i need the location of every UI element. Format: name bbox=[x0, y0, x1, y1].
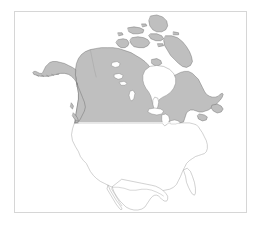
newfoundland-island-shape bbox=[211, 104, 223, 113]
devon-island-shape bbox=[149, 34, 164, 41]
ellesmere-island-shape bbox=[149, 15, 168, 32]
queen-charlotte-islands-detail bbox=[71, 103, 74, 109]
map-figure: false bbox=[0, 0, 263, 228]
map-frame bbox=[14, 11, 247, 213]
north-america-map[interactable] bbox=[15, 12, 246, 212]
florida-peninsula-outline bbox=[184, 168, 196, 195]
baffin-island-shape[interactable] bbox=[164, 36, 193, 68]
banks-island-shape bbox=[116, 39, 129, 48]
shaded-countries-group bbox=[33, 15, 223, 123]
southampton-island-shape bbox=[152, 59, 162, 66]
alaska-shape[interactable] bbox=[33, 62, 78, 86]
victoria-island-shape bbox=[130, 37, 150, 48]
nova-scotia-shape bbox=[197, 114, 207, 121]
unshaded-countries-group bbox=[72, 123, 208, 210]
melville-island-shape bbox=[128, 27, 144, 34]
